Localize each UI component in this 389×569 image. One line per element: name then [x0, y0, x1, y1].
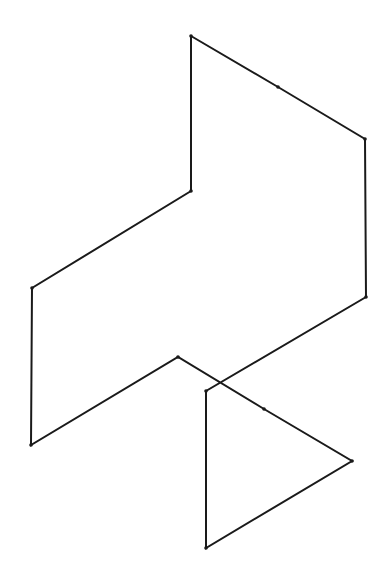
- vertex-dot-10: [350, 459, 354, 463]
- vertex-dot-3: [189, 189, 193, 193]
- vertex-dot-0: [189, 34, 193, 38]
- vertex-dot-11: [204, 546, 208, 550]
- vertex-dot-1: [276, 85, 280, 89]
- vertex-dot-5: [364, 295, 368, 299]
- vertex-dot-6: [176, 355, 180, 359]
- vertex-dot-4: [30, 286, 34, 290]
- vertex-dot-8: [262, 407, 266, 411]
- folded-strip-outline: [31, 36, 366, 548]
- vertex-dots: [29, 34, 368, 550]
- vertex-dot-7: [204, 389, 208, 393]
- vertex-dot-9: [29, 443, 33, 447]
- vertex-dot-2: [363, 137, 367, 141]
- diagram-canvas: [0, 0, 389, 569]
